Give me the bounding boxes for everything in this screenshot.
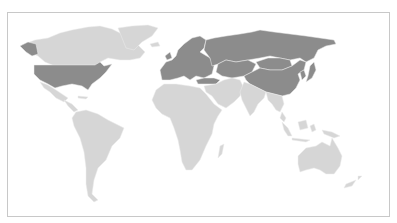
region-iceland [150,42,160,47]
region-korea [300,70,306,80]
region-papua-new-guinea [322,130,340,138]
region-alaska [20,42,38,56]
region-australia [298,138,342,174]
region-indonesia [282,120,316,142]
region-southeast-asia [266,92,286,122]
region-madagascar [218,144,224,158]
region-south-america [72,110,124,202]
region-japan [306,62,316,82]
world-map [0,0,397,223]
region-new-zealand [344,176,362,188]
region-turkey [196,78,220,84]
region-africa [152,84,222,170]
